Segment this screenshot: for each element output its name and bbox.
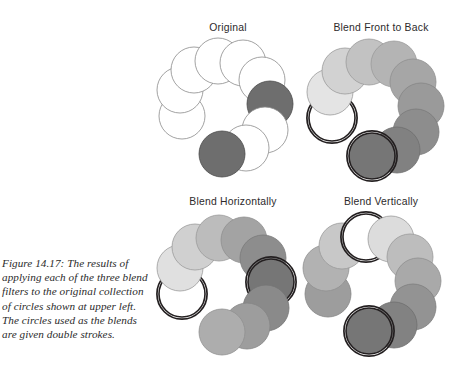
figure-caption: Figure 14.17: The results of applying ea… (2, 256, 148, 341)
circle-body (346, 308, 392, 354)
circle-stage-vertically (300, 212, 462, 362)
circle-body (199, 131, 245, 177)
circle-original-9 (199, 131, 245, 177)
panel-title-blend-front-to-back: Blend Front to Back (300, 22, 462, 33)
circle-body (199, 309, 245, 355)
circle-stage-front-to-back (300, 38, 462, 188)
panel-blend-vertically: Blend Vertically (300, 196, 462, 366)
circle-stage-horizontally (152, 212, 314, 362)
circle-chain-front-to-back (300, 38, 462, 188)
circle-body (349, 133, 395, 179)
panel-original: Original (152, 22, 304, 190)
circle-chain-vertical (300, 212, 462, 362)
panel-title-blend-horizontally: Blend Horizontally (152, 196, 314, 207)
figure-container: Figure 14.17: The results of applying ea… (0, 0, 462, 369)
panel-blend-front-to-back: Blend Front to Back (300, 22, 462, 190)
circle-vertical-9 (344, 306, 394, 356)
circle-chain-horizontal (152, 212, 314, 362)
circle-horizontal-9 (199, 309, 245, 355)
panel-title-original: Original (152, 22, 304, 33)
circle-chain-original (152, 38, 314, 188)
circle-stage-original (152, 38, 304, 188)
panel-title-blend-vertically: Blend Vertically (300, 196, 462, 207)
panel-blend-horizontally: Blend Horizontally (152, 196, 314, 366)
circle-front-to-back-9 (347, 131, 397, 181)
